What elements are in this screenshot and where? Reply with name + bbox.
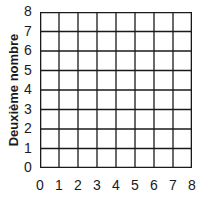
x-tick-label: 0 <box>33 178 47 192</box>
y-axis-label: Deuxième nombre <box>6 34 21 147</box>
y-tick-label: 4 <box>22 82 34 96</box>
y-tick-label: 7 <box>22 24 34 38</box>
y-tick-label: 1 <box>22 141 34 155</box>
y-tick-label: 5 <box>22 63 34 77</box>
x-tick-label: 3 <box>90 178 104 192</box>
x-tick-label: 7 <box>166 178 180 192</box>
x-tick-label: 8 <box>185 178 198 192</box>
y-tick-label: 2 <box>22 121 34 135</box>
y-tick-label: 0 <box>22 160 34 174</box>
x-tick-label: 4 <box>109 178 123 192</box>
x-tick-label: 2 <box>71 178 85 192</box>
y-tick-label: 3 <box>22 102 34 116</box>
y-tick-label: 6 <box>22 43 34 57</box>
chart-grid <box>40 12 192 168</box>
x-tick-label: 5 <box>128 178 142 192</box>
y-tick-label: 8 <box>22 4 34 18</box>
x-tick-label: 1 <box>52 178 66 192</box>
x-tick-label: 6 <box>147 178 161 192</box>
